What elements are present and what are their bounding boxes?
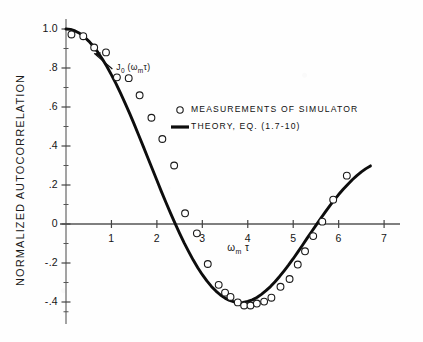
measurement-marker (253, 300, 260, 307)
annotation-arrow-shaft (94, 53, 112, 69)
measurement-marker (68, 31, 75, 38)
measurement-marker (261, 298, 268, 305)
x-axis-title-subscript: m (236, 248, 242, 255)
legend-label-measurements: MEASUREMENTS OF SIMULATOR (191, 104, 358, 114)
measurement-marker (204, 261, 211, 268)
measurement-marker (125, 75, 132, 82)
y-tick-label: -.4 (20, 295, 58, 307)
axes-layer (60, 19, 400, 324)
y-tick-label: .8 (20, 61, 58, 73)
x-tick-label: 5 (279, 232, 307, 244)
measurement-marker (277, 283, 284, 290)
y-tick-label: .2 (20, 178, 58, 190)
y-tick-label: 1.0 (20, 22, 58, 34)
measurement-marker (268, 294, 275, 301)
measurement-marker (286, 276, 293, 283)
x-tick-label: 3 (188, 232, 216, 244)
x-axis-title-omega: ω (227, 242, 235, 253)
measurement-marker (343, 172, 350, 179)
chart-plot (0, 0, 423, 342)
measurement-marker (302, 248, 309, 255)
y-tick-label: .6 (20, 100, 58, 112)
x-tick-label: 6 (325, 232, 353, 244)
annotation-subscript-zero: 0 (121, 67, 125, 74)
measurement-marker (247, 302, 254, 309)
measurement-marker (103, 49, 110, 56)
measurement-marker (136, 92, 143, 99)
legend-symbols-layer (171, 107, 189, 127)
measurement-marker (310, 233, 317, 240)
x-tick-label: 7 (370, 232, 398, 244)
measurement-marker (227, 294, 234, 301)
y-tick-label: 0 (20, 217, 58, 229)
legend-marker-circle (177, 107, 183, 113)
measurement-marker (182, 210, 189, 217)
y-tick-label: -.2 (20, 256, 58, 268)
measurement-marker (159, 136, 166, 143)
measurement-marker (80, 33, 87, 40)
measurement-marker (319, 218, 326, 225)
theory-curve (66, 29, 370, 303)
legend-label-theory: THEORY, EQ. (1.7-10) (191, 121, 301, 131)
measurement-marker (148, 114, 155, 121)
measurement-marker (330, 196, 337, 203)
measurement-marker (91, 44, 98, 51)
annotation-paren-omega: (ω (128, 62, 138, 72)
x-axis-title: ωm τ (227, 242, 249, 255)
measurement-marker (114, 74, 121, 81)
annotation-tau-close: τ) (143, 62, 150, 72)
curve-annotation-label: J0 (ωmτ) (116, 62, 150, 74)
figure-canvas: NORMALIZED AUTOCORRELATION 1.0.8.6.4.20-… (0, 0, 423, 342)
measurement-marker (294, 261, 301, 268)
x-axis-title-tau: τ (245, 242, 249, 253)
theory-curve-layer (66, 29, 370, 303)
measurement-marker (234, 299, 241, 306)
measurement-marker (215, 281, 222, 288)
x-tick-label: 2 (143, 232, 171, 244)
measurement-marker (241, 302, 248, 309)
measurement-marker (171, 162, 178, 169)
y-tick-label: .4 (20, 139, 58, 151)
x-tick-label: 1 (97, 232, 125, 244)
